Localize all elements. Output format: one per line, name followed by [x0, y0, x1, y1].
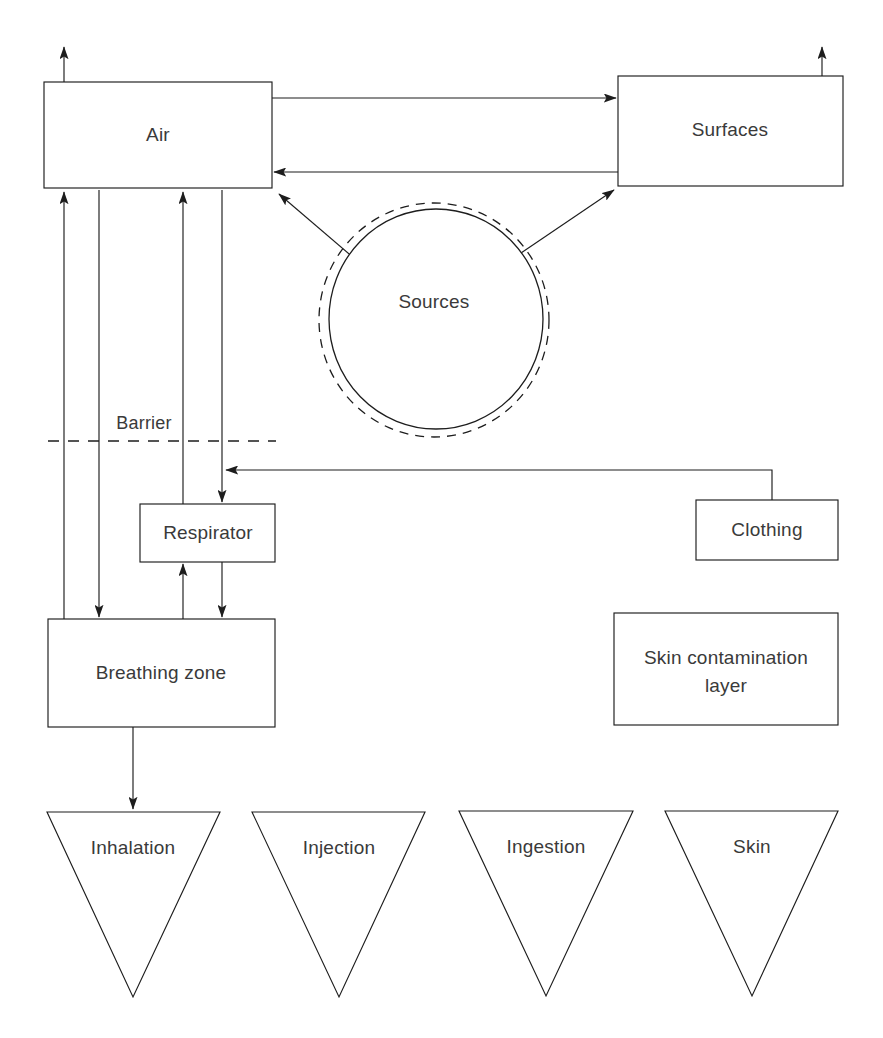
breathing-zone-label: Breathing zone [96, 662, 227, 683]
node-surfaces[interactable]: Surfaces [618, 76, 843, 186]
respirator-label: Respirator [163, 522, 253, 543]
skin-contamination-layer-label-line1: Skin contamination [644, 647, 808, 668]
node-skin[interactable]: Skin [665, 811, 838, 996]
injection-label: Injection [303, 837, 376, 858]
inhalation-label: Inhalation [91, 837, 175, 858]
node-respirator[interactable]: Respirator [140, 504, 275, 562]
sources-label: Sources [398, 291, 469, 312]
barrier-label: Barrier [116, 413, 171, 433]
node-breathing-zone[interactable]: Breathing zone [48, 619, 275, 727]
skin-label: Skin [733, 836, 771, 857]
clothing-label: Clothing [731, 519, 802, 540]
air-label: Air [146, 124, 170, 145]
surfaces-label: Surfaces [692, 119, 769, 140]
node-skin-contamination-layer[interactable]: Skin contamination layer [614, 613, 838, 725]
exposure-pathway-diagram: Air Surfaces Sources Barrier Respirator … [0, 0, 883, 1038]
skin-contamination-layer-label-line2: layer [705, 675, 748, 696]
edge-sources-to-surfaces [521, 190, 614, 253]
edge-clothing-to-respirator-line [226, 470, 772, 500]
node-air[interactable]: Air [44, 82, 272, 188]
sources-circle[interactable] [329, 209, 543, 429]
node-inhalation[interactable]: Inhalation [47, 812, 220, 997]
node-clothing[interactable]: Clothing [696, 500, 838, 560]
ingestion-label: Ingestion [507, 836, 586, 857]
skin-contamination-layer-box[interactable] [614, 613, 838, 725]
node-injection[interactable]: Injection [252, 812, 425, 997]
node-sources[interactable]: Sources [319, 203, 549, 437]
node-ingestion[interactable]: Ingestion [459, 811, 633, 996]
